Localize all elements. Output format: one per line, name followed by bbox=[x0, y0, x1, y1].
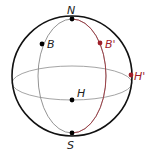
label-h: H bbox=[77, 87, 85, 100]
label-n: N bbox=[67, 4, 75, 17]
label-h-prime: H' bbox=[134, 70, 145, 83]
label-b: B bbox=[47, 38, 55, 51]
meridian-red bbox=[72, 19, 106, 133]
point-b-prime bbox=[98, 41, 103, 46]
label-b-prime: B' bbox=[105, 38, 116, 51]
point-s bbox=[70, 131, 75, 136]
point-b bbox=[40, 42, 45, 47]
point-h-prime bbox=[129, 73, 134, 78]
sphere-diagram: N S B H B' H' bbox=[0, 0, 146, 157]
point-h bbox=[70, 98, 75, 103]
label-s: S bbox=[67, 139, 74, 152]
sphere-outline bbox=[12, 16, 132, 136]
point-n bbox=[70, 17, 75, 22]
equator bbox=[12, 66, 132, 100]
